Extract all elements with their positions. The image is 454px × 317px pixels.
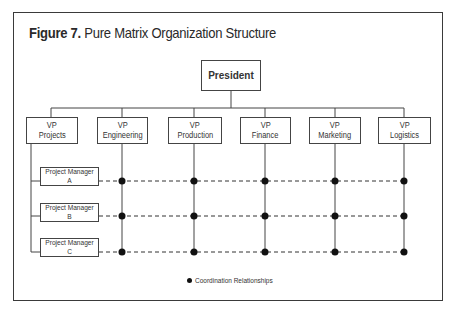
- pm-letter: B: [67, 213, 71, 221]
- project-manager-b-box: Project Manager B: [40, 203, 99, 222]
- project-manager-c-box: Project Manager C: [40, 238, 99, 257]
- legend: Coordination Relationships: [187, 277, 273, 284]
- vp-marketing-box: VP Marketing: [309, 117, 361, 144]
- pm-letter: A: [67, 177, 71, 185]
- vp-projects-box: VP Projects: [26, 117, 78, 144]
- legend-dot-icon: [187, 278, 192, 283]
- vp-logistics-box: VP Logistics: [378, 117, 431, 144]
- vp-department: Projects: [38, 131, 65, 140]
- vp-finance-box: VP Finance: [240, 117, 291, 144]
- pm-letter: C: [67, 248, 72, 256]
- vp-department: Marketing: [319, 131, 352, 140]
- vp-department: Production: [177, 131, 213, 140]
- president-label: President: [208, 70, 254, 81]
- vp-department: Finance: [252, 131, 279, 140]
- vp-engineering-box: VP Engineering: [97, 117, 148, 144]
- project-manager-a-box: Project Manager A: [40, 167, 99, 186]
- vp-department: Engineering: [103, 131, 143, 140]
- connector-lines: [0, 0, 454, 317]
- vp-department: Logistics: [390, 131, 419, 140]
- president-box: President: [201, 60, 261, 91]
- legend-label: Coordination Relationships: [195, 277, 273, 284]
- vp-production-box: VP Production: [168, 117, 222, 144]
- coordination-dots: [119, 178, 408, 256]
